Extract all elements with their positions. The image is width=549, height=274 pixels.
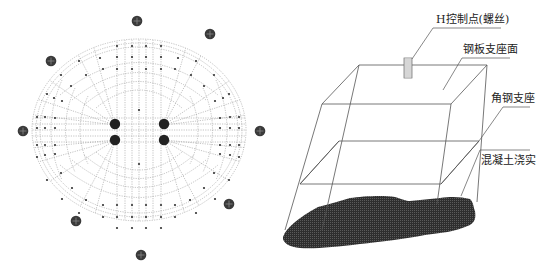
screw-icon	[404, 58, 412, 78]
diagram-figure: H控制点(螺丝) 钢板支座面 角钢支座 混凝土浇实	[0, 0, 549, 274]
label-h-control-point: H控制点(螺丝)	[436, 14, 509, 26]
label-angle-steel-support: 角钢支座	[491, 93, 535, 105]
support-box-3d	[0, 0, 549, 274]
concrete-fill	[283, 196, 475, 248]
label-steel-plate-surface: 钢板支座面	[463, 44, 518, 56]
label-concrete-compacted: 混凝土浇实	[481, 155, 536, 167]
